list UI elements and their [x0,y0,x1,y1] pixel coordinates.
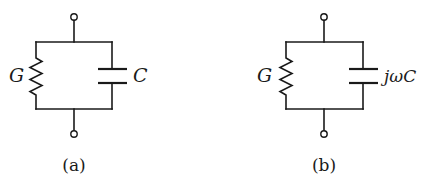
panel-a: G C (a) [9,14,148,175]
bottom-terminal-b [321,131,327,137]
capacitor-jwc-icon [349,42,378,109]
top-terminal-b [321,14,327,20]
capacitor-label-a: C [133,64,148,86]
bottom-terminal-a [71,131,77,137]
caption-b: (b) [312,155,336,175]
capacitor-label-b: jωC [380,66,416,86]
resistor-label-a: G [9,64,24,86]
resistor-g-icon [30,42,42,109]
caption-a: (a) [62,155,85,175]
resistor-g-icon [280,42,292,109]
panel-b: G jωC (b) [257,14,416,175]
resistor-label-b: G [257,64,272,86]
capacitor-c-icon [98,42,127,109]
top-terminal-a [71,14,77,20]
circuit-figure: G C (a) G jωC (b) [0,0,429,190]
